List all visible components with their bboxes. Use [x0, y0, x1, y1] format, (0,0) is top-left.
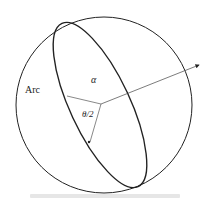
sphere-diagram: Arc α θ/2: [0, 0, 209, 201]
caption-cut-off: [30, 194, 180, 198]
alpha-label: α: [91, 74, 97, 85]
great-circle-ellipse: [35, 11, 165, 199]
arc-label: Arc: [25, 84, 41, 95]
point-dot: [88, 141, 90, 143]
radius-left: [67, 96, 101, 104]
half-angle-label: θ/2: [82, 109, 94, 119]
